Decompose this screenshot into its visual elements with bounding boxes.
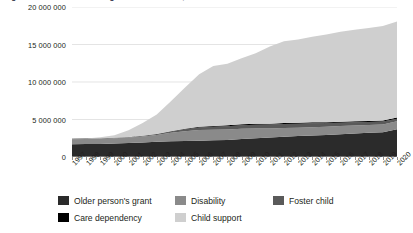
legend-label: Foster child: [289, 196, 333, 206]
chart-area: 05 000 00010 000 00015 000 00020 000 000: [0, 7, 408, 157]
legend-item[interactable]: Older person's grant: [58, 193, 152, 208]
legend-swatch: [175, 213, 186, 222]
y-axis-tick-label: 5 000 000: [32, 115, 66, 124]
legend-label: Disability: [191, 196, 225, 206]
legend-row-2: Care dependencyChild support: [0, 210, 408, 225]
y-axis-labels: 05 000 00010 000 00015 000 00020 000 000: [0, 7, 68, 157]
legend-row-1: Older person's grantDisabilityFoster chi…: [0, 193, 408, 208]
figure-title: Figure 1: Number of social grant benefic…: [4, 0, 226, 1]
legend-label: Child support: [191, 213, 242, 223]
y-axis-tick-label: 15 000 000: [28, 40, 66, 49]
legend-swatch: [273, 196, 284, 205]
legend-label: Older person's grant: [74, 196, 152, 206]
legend-item[interactable]: Disability: [175, 193, 225, 208]
legend-item[interactable]: Care dependency: [58, 210, 142, 225]
legend-swatch: [58, 196, 69, 205]
x-axis-labels: 1997199819992000200120022003200420052006…: [0, 157, 408, 191]
legend-swatch: [175, 196, 186, 205]
legend-label: Care dependency: [74, 213, 142, 223]
area-series: [72, 22, 397, 139]
stacked-area-svg: [72, 7, 397, 157]
legend-swatch: [58, 213, 69, 222]
y-axis-tick-label: 20 000 000: [28, 3, 66, 12]
chart-legend: Older person's grantDisabilityFoster chi…: [0, 193, 408, 233]
plot-area: [72, 7, 397, 157]
y-axis-tick-label: 10 000 000: [28, 78, 66, 87]
legend-item[interactable]: Child support: [175, 210, 242, 225]
legend-item[interactable]: Foster child: [273, 193, 333, 208]
